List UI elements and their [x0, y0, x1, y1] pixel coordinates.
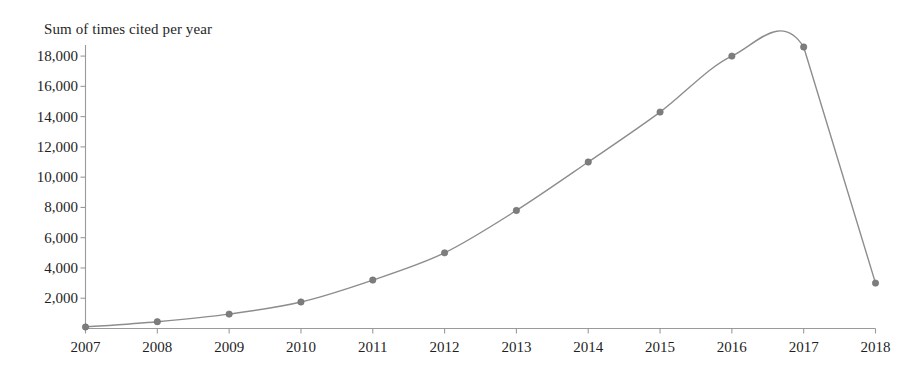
x-axis-ticks: [86, 329, 876, 334]
data-point-2007: [82, 324, 88, 330]
chart-plot-svg: [0, 0, 916, 380]
x-tick-label: 2016: [696, 339, 768, 355]
x-tick-label: 2012: [409, 339, 481, 355]
x-tick-label: 2007: [50, 339, 122, 355]
y-axis-ticks: [81, 56, 86, 298]
data-point-2015: [657, 109, 663, 115]
data-point-2017: [800, 44, 806, 50]
x-tick-label: 2014: [552, 339, 624, 355]
data-point-2011: [370, 277, 376, 283]
data-point-2014: [585, 159, 591, 165]
data-point-2012: [441, 250, 447, 256]
x-tick-label: 2010: [265, 339, 337, 355]
y-tick-label: 16,000: [8, 79, 78, 94]
y-tick-label: 4,000: [8, 260, 78, 275]
x-tick-label: 2009: [193, 339, 265, 355]
x-tick-label: 2018: [840, 339, 912, 355]
data-point-2010: [298, 299, 304, 305]
series-markers: [82, 44, 878, 330]
x-tick-label: 2015: [624, 339, 696, 355]
y-tick-label: 6,000: [8, 230, 78, 245]
x-tick-label: 2017: [768, 339, 840, 355]
y-axis-labels: 18,00016,00014,00012,00010,0008,0006,000…: [8, 0, 78, 380]
y-tick-label: 14,000: [8, 109, 78, 124]
data-point-2008: [154, 318, 160, 324]
data-point-2016: [729, 53, 735, 59]
data-point-2013: [513, 207, 519, 213]
chart-axes: [86, 45, 876, 329]
y-tick-label: 8,000: [8, 200, 78, 215]
y-tick-label: 18,000: [8, 49, 78, 64]
data-point-2009: [226, 311, 232, 317]
y-tick-label: 10,000: [8, 170, 78, 185]
x-tick-label: 2011: [337, 339, 409, 355]
chart-container: Sum of times cited per year 18,00016,000…: [0, 0, 916, 380]
y-tick-label: 2,000: [8, 291, 78, 306]
data-point-2018: [872, 280, 878, 286]
series-line-sum-of-times-cited: [86, 31, 876, 327]
x-tick-label: 2013: [480, 339, 552, 355]
y-tick-label: 12,000: [8, 139, 78, 154]
x-tick-label: 2008: [121, 339, 193, 355]
